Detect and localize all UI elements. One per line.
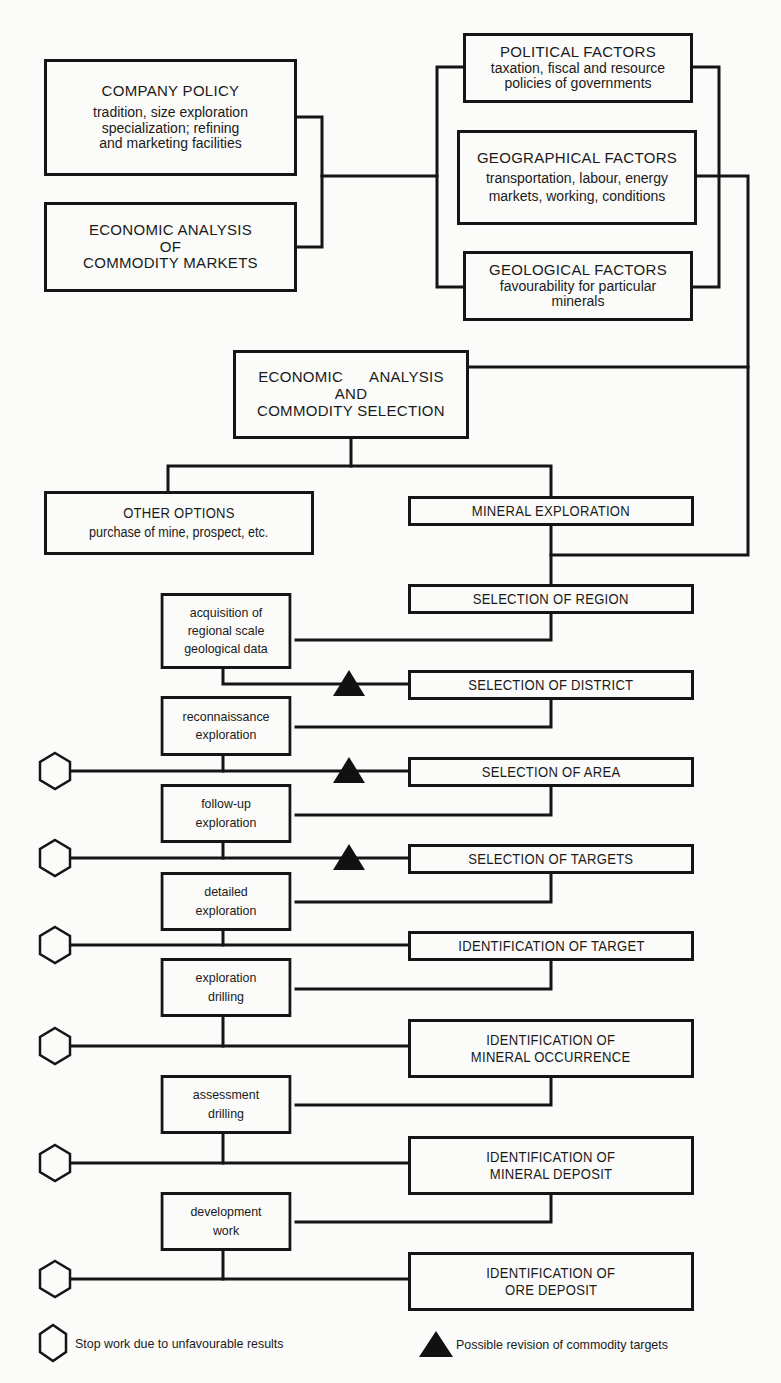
geographical-factors-box: GEOGRAPHICAL FACTORS transportation, lab… — [457, 130, 697, 225]
economic-analysis-markets-box: ECONOMIC ANALYSIS OF COMMODITY MARKETS — [44, 202, 297, 292]
hexagon-icon — [37, 1143, 73, 1183]
milestone-selection-of-area: SELECTION OF AREA — [408, 757, 694, 787]
hexagon-icon — [37, 838, 73, 878]
milestone-identification-of-target: IDENTIFICATION OF TARGET — [408, 931, 694, 961]
other-options-box: OTHER OPTIONS purchase of mine, prospect… — [44, 491, 314, 555]
milestone-identification-of-mineral-occurrence: IDENTIFICATION OF MINERAL OCCURRENCE — [408, 1019, 694, 1078]
milestone-identification-of-ore-deposit: IDENTIFICATION OF ORE DEPOSIT — [408, 1252, 694, 1311]
company-policy-title: COMPANY POLICY — [102, 83, 240, 100]
other-options-title: OTHER OPTIONS — [123, 505, 235, 521]
geographical-factors-title: GEOGRAPHICAL FACTORS — [477, 150, 677, 167]
legend-revision-label: Possible revision of commodity targets — [456, 1337, 668, 1352]
activity-assessment-drilling: assessment drilling — [161, 1075, 292, 1134]
exploration-flowchart: COMPANY POLICY tradition, size explorati… — [0, 0, 781, 1383]
legend-stop-work: Stop work due to unfavourable results — [37, 1323, 302, 1363]
activity-acquisition-of-regional-data: acquisition of regional scale geological… — [161, 593, 292, 669]
company-policy-box: COMPANY POLICY tradition, size explorati… — [44, 59, 297, 176]
milestone-selection-of-district: SELECTION OF DISTRICT — [408, 670, 694, 700]
hexagon-icon — [37, 1323, 69, 1363]
activity-development-work: development work — [161, 1192, 292, 1251]
political-factors-box: POLITICAL FACTORS taxation, fiscal and r… — [463, 33, 693, 103]
triangle-icon — [332, 756, 366, 784]
milestone-identification-of-mineral-deposit: IDENTIFICATION OF MINERAL DEPOSIT — [408, 1136, 694, 1195]
commodity-selection-box: ECONOMIC ANALYSIS AND COMMODITY SELECTIO… — [233, 350, 469, 439]
triangle-icon — [418, 1330, 454, 1358]
activity-detailed-exploration: detailed exploration — [161, 872, 292, 931]
legend-stop-label: Stop work due to unfavourable results — [75, 1336, 284, 1351]
mineral-exploration-box: MINERAL EXPLORATION — [408, 496, 694, 526]
milestone-selection-of-targets: SELECTION OF TARGETS — [408, 844, 694, 874]
hexagon-icon — [37, 1259, 73, 1299]
geological-factors-box: GEOLOGICAL FACTORS favourability for par… — [463, 251, 693, 321]
geological-factors-title: GEOLOGICAL FACTORS — [489, 262, 667, 279]
triangle-icon — [332, 843, 366, 871]
activity-reconnaissance-exploration: reconnaissance exploration — [161, 696, 292, 756]
hexagon-icon — [37, 925, 73, 965]
milestone-selection-of-region: SELECTION OF REGION — [408, 584, 694, 614]
hexagon-icon — [37, 1026, 73, 1066]
legend-revision: Possible revision of commodity targets — [418, 1330, 686, 1358]
activity-follow-up-exploration: follow-up exploration — [161, 784, 292, 843]
hexagon-icon — [37, 751, 73, 791]
activity-exploration-drilling: exploration drilling — [161, 958, 292, 1017]
triangle-icon — [332, 669, 366, 697]
political-factors-title: POLITICAL FACTORS — [500, 44, 656, 61]
